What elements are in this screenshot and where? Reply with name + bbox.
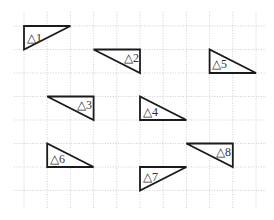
figure-svg: △1△2△3△4△5△6△7△8 — [0, 0, 274, 220]
triangle-label: △8 — [216, 145, 231, 159]
triangle-label: △3 — [77, 98, 92, 112]
triangle-grid-figure: △1△2△3△4△5△6△7△8 — [0, 0, 274, 220]
triangle-label: △7 — [143, 170, 158, 184]
triangle-4: △4 — [140, 97, 186, 121]
triangle-label: △1 — [27, 31, 42, 45]
triangle-5: △5 — [210, 50, 256, 74]
triangle-6: △6 — [47, 144, 93, 168]
triangle-label: △4 — [143, 105, 158, 119]
triangle-label: △6 — [50, 152, 65, 166]
triangle-label: △2 — [124, 51, 139, 65]
triangle-label: △5 — [212, 57, 227, 71]
